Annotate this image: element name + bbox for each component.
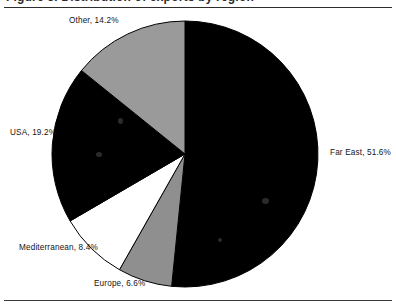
slice-label-europe: Europe, 6.6% xyxy=(94,279,145,288)
figure-root: Figure 3. Distribution of exports by reg… xyxy=(0,0,396,308)
bottom-horizontal-rule xyxy=(4,300,392,301)
slice-label-mediterranean: Mediterranean, 8.4% xyxy=(19,243,98,252)
slice-label-far-east: Far East, 51.6% xyxy=(330,148,391,157)
slice-label-usa: USA, 19.2% xyxy=(10,128,56,137)
pie-slice-far-east xyxy=(172,21,318,287)
slice-label-other: Other, 14.2% xyxy=(69,16,119,25)
